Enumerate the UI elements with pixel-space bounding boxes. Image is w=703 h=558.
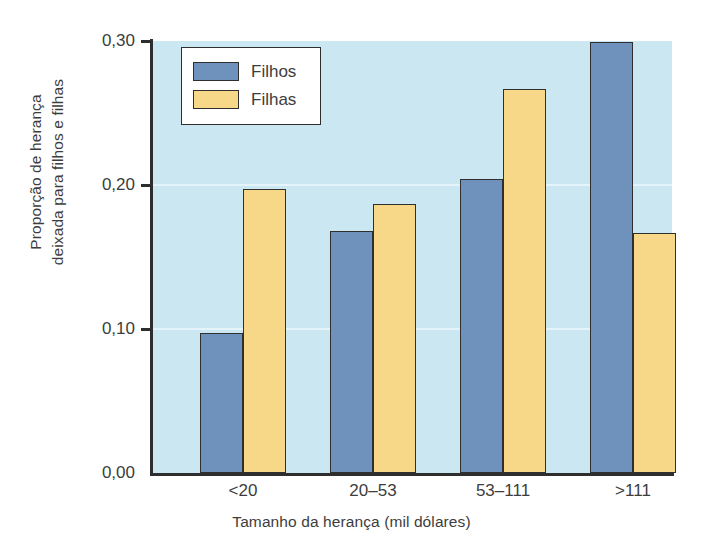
legend-swatch-filhas-icon (193, 90, 239, 109)
bar-filhas-0 (243, 189, 286, 473)
bar-filhos-1 (330, 231, 373, 473)
bar-filhos-3 (590, 42, 633, 473)
bar-filhas-3 (633, 233, 676, 473)
legend-item-filhos: Filhos (193, 57, 320, 85)
x-axis-title: Tamanho da herança (mil dólares) (0, 513, 703, 531)
bar-filhos-0 (200, 333, 243, 473)
y-axis-title: Proporção de herança deixada para filhos… (25, 7, 69, 337)
x-axis-line (150, 473, 674, 476)
bar-chart-figure: Proporção de herança deixada para filhos… (0, 0, 703, 558)
legend-item-filhas: Filhas (193, 85, 320, 113)
y-axis-title-line1: Proporção de herança (25, 7, 47, 337)
y-tick-label-020: 0,20 (75, 175, 135, 195)
bar-filhas-1 (373, 204, 416, 473)
legend-swatch-filhos-icon (193, 62, 239, 81)
legend-label-filhas: Filhas (251, 90, 296, 109)
legend-label-filhos: Filhos (251, 62, 296, 81)
x-tick-label-2: 53–111 (476, 481, 530, 501)
y-tick-label-000: 0,00 (75, 463, 135, 483)
x-tick-label-1: 20–53 (349, 481, 396, 501)
bar-filhos-2 (460, 179, 503, 473)
bar-filhas-2 (503, 89, 546, 473)
x-tick-label-3: >111 (615, 481, 651, 501)
y-tick-label-030: 0,30 (75, 31, 135, 51)
chart-legend: Filhos Filhas (181, 47, 321, 125)
y-tick-label-010: 0,10 (75, 319, 135, 339)
x-tick-label-0: <20 (229, 481, 258, 501)
y-axis-title-line2: deixada para filhos e filhas (47, 7, 69, 337)
